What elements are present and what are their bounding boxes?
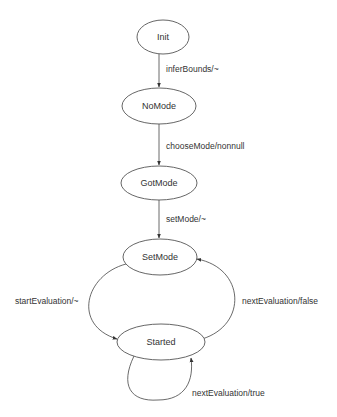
state-started: Started [117,324,205,360]
transition-init-nomode: inferBounds/~ [159,54,219,87]
state-label: Init [157,32,170,42]
arrow-started-setmode [197,259,235,339]
transition-started-setmode: nextEvaluation/false [197,259,318,339]
state-label: GotMode [140,178,177,188]
state-label: NoMode [142,101,176,111]
transition-label: nextEvaluation/true [192,388,265,398]
transition-started-self: nextEvaluation/true [128,356,265,400]
transition-label: startEvaluation/~ [15,296,79,306]
transition-nomode-gotmode: chooseMode/nonnull [159,124,245,165]
state-diagram: inferBounds/~ chooseMode/nonnull setMode… [0,0,337,417]
state-setmode: SetMode [123,239,197,275]
state-label: SetMode [142,252,178,262]
transition-gotmode-setmode: setMode/~ [159,200,206,238]
transition-label: nextEvaluation/false [242,296,318,306]
transition-label: chooseMode/nonnull [166,141,245,151]
transition-setmode-started: startEvaluation/~ [15,264,126,339]
state-gotmode: GotMode [121,166,197,200]
state-label: Started [146,337,175,347]
arrow-setmode-started [89,264,126,339]
transition-label: setMode/~ [166,214,206,224]
state-nomode: NoMode [122,88,196,124]
transition-label: inferBounds/~ [166,64,219,74]
state-init: Init [137,20,189,54]
arrow-started-self-loop [128,356,192,400]
